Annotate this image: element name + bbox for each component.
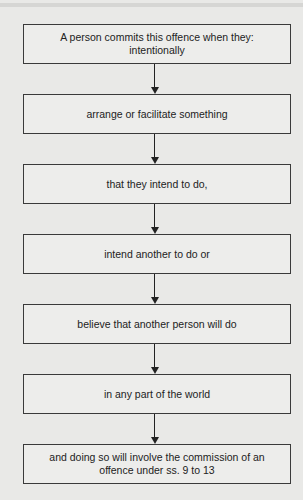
top-band [0,3,303,7]
flow-step-6: in any part of the world [23,374,291,414]
flow-step-7: and doing so will involve the commission… [23,444,291,484]
down-arrow-icon [154,274,156,304]
down-arrow-icon [154,134,156,164]
flow-step-1-line-1: A person commits this offence when they: [60,31,254,44]
flow-step-5: believe that another person will do [23,304,291,344]
flow-step-4-text: intend another to do or [104,248,210,261]
flow-step-4: intend another to do or [23,234,291,274]
flow-step-7-line-2: offence under ss. 9 to 13 [49,464,264,477]
down-arrow-icon [154,204,156,234]
flow-step-1-line-2: intentionally [60,44,254,57]
down-arrow-icon [154,414,156,444]
flow-step-6-text: in any part of the world [104,388,210,401]
flow-step-2: arrange or facilitate something [23,94,291,134]
down-arrow-icon [154,344,156,374]
flow-step-5-text: believe that another person will do [77,318,236,331]
down-arrow-icon [154,64,156,94]
flow-step-7-line-1: and doing so will involve the commission… [49,451,264,464]
flow-step-3-text: that they intend to do, [107,178,208,191]
flow-step-2-text: arrange or facilitate something [86,108,227,121]
flow-step-1: A person commits this offence when they:… [23,24,291,64]
flow-step-3: that they intend to do, [23,164,291,204]
